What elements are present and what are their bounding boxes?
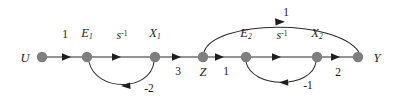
- arrowhead-x2-y: [331, 53, 340, 61]
- node-e1[interactable]: [82, 52, 92, 62]
- feedback-arc-x2-e2-path: [246, 62, 316, 82]
- forward-arc-z-y-path: [204, 27, 359, 52]
- node-x2[interactable]: [312, 52, 322, 62]
- feedback-arc-x1-e1: [89, 62, 154, 89]
- arrowhead-z-e2: [215, 53, 224, 61]
- feedback-arc-x1-e1-path: [89, 62, 154, 85]
- graph-nodes: [37, 52, 363, 62]
- feedback-arc-x2-e2: [246, 62, 316, 86]
- node-u[interactable]: [37, 52, 47, 62]
- node-z[interactable]: [198, 52, 208, 62]
- arrowhead-x2-e2: [279, 79, 288, 86]
- signal-flow-graph: [0, 0, 400, 99]
- arrowhead-e2-x2: [272, 53, 281, 61]
- arrowhead-u-e1: [62, 53, 71, 61]
- arrowhead-z-y: [275, 18, 285, 25]
- node-e2[interactable]: [241, 52, 251, 62]
- arrowhead-x1-e1: [121, 82, 131, 89]
- node-y[interactable]: [353, 52, 363, 62]
- forward-arc-z-y: [204, 18, 359, 52]
- diagram-canvas: U E1 X1 Z E2 X2 Y 1 s-1 3 1 s-1 2 -2 -1 …: [0, 0, 400, 99]
- arrowhead-e1-x1: [112, 53, 121, 61]
- node-x1[interactable]: [150, 52, 160, 62]
- arrowhead-x1-z: [172, 53, 181, 61]
